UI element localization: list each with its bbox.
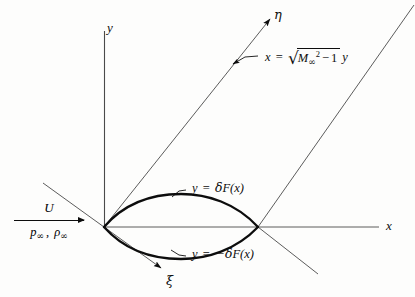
y-axis-label: y: [107, 21, 113, 34]
mach-line-equation: x = √M∞2−1 y: [265, 48, 348, 68]
eta-axis-label: η: [274, 8, 282, 21]
mach-eq-radicand: M∞2−1: [297, 48, 340, 68]
p-infinity-subscript: ∞: [37, 231, 45, 241]
lower-surface-label: y = −δF(x): [192, 248, 254, 261]
upper-label-equals: =: [201, 181, 212, 195]
square-root-icon: √M∞2−1: [288, 48, 340, 68]
trailing-mach-line-lower: [258, 227, 318, 274]
trailing-mach-line-upper: [258, 5, 414, 227]
mach-eq-one: 1: [331, 51, 337, 65]
upper-label-var: y: [192, 181, 198, 195]
freestream-arrow-icon: [14, 217, 84, 224]
rho-infinity-subscript: ∞: [60, 231, 68, 241]
mach-eq-trailing-y: y: [342, 50, 348, 64]
lower-label-leader: [171, 250, 186, 256]
lower-label-equals: =: [201, 247, 212, 261]
mach-subscript: ∞: [308, 57, 316, 67]
mach-symbol: M: [298, 51, 308, 65]
eta-axis-line: [104, 19, 270, 227]
freestream-conditions: U p∞, ρ∞: [12, 200, 86, 241]
lower-label-sign: −: [215, 247, 225, 261]
figure-container: y x η ξ U p∞, ρ∞ x = √M∞2−1 y y = δF(x) …: [0, 0, 415, 297]
xi-axis-label: ξ: [166, 274, 173, 287]
lower-label-argument: (x): [240, 247, 254, 261]
lower-label-function: F: [232, 247, 240, 261]
mach-eq-lhs: x: [265, 50, 271, 64]
upper-surface-label: y = δF(x): [192, 182, 244, 195]
lower-label-var: y: [192, 247, 198, 261]
x-axis-label: x: [386, 219, 392, 232]
upper-label-argument: (x): [230, 181, 244, 195]
freestream-velocity-label: U: [12, 200, 86, 216]
mach-eq-minus: −: [320, 51, 331, 65]
upper-label-function: F: [222, 181, 230, 195]
airfoil-upper-surface: [104, 194, 258, 227]
freestream-state-label: p∞, ρ∞: [12, 225, 86, 241]
mach-eq-equals: =: [274, 50, 285, 64]
